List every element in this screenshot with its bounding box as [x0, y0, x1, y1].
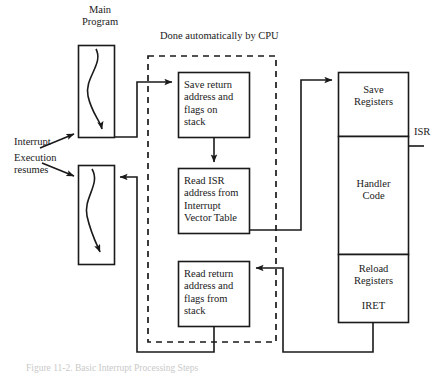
label-interrupt: Interrupt: [14, 136, 51, 148]
label-isr: ISR: [414, 126, 430, 138]
label-done-by-cpu: Done automatically by CPU: [160, 30, 279, 42]
label-main-program: Main Program: [74, 4, 126, 28]
text-reload-registers: Reload Registers: [339, 263, 408, 288]
text-read-return-address: Read return address and flags from stack: [184, 268, 248, 318]
interrupt-processing-diagram: Main Program Done automatically by CPU I…: [0, 0, 441, 375]
text-save-registers: Save Registers: [339, 84, 408, 109]
figure-caption: Figure 11-2. Basic Interrupt Processing …: [26, 363, 198, 373]
text-read-isr-address: Read ISR address from Interrupt Vector T…: [184, 175, 250, 225]
main-program-block-1: [79, 46, 115, 138]
text-save-return-address: Save return address and flags on stack: [184, 79, 248, 129]
text-handler-code: Handler Code: [339, 178, 408, 203]
connector-main-to-save-return: [115, 82, 173, 137]
text-iret: IRET: [339, 300, 408, 312]
main-program-block-2: [79, 166, 115, 265]
connector-readisr-to-isr: [250, 80, 333, 230]
label-execution-resumes: Execution resumes: [14, 152, 57, 176]
